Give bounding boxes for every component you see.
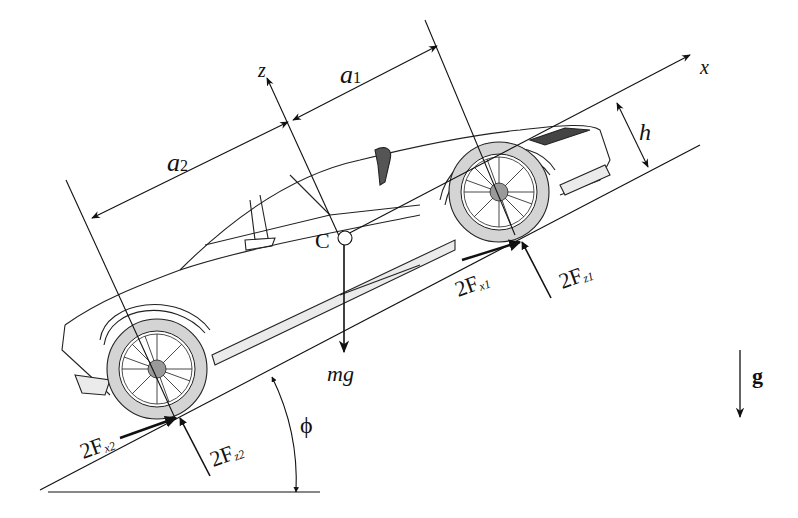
a2-label: a2 <box>167 150 188 176</box>
center-of-mass-marker <box>338 231 352 245</box>
free-body-diagram <box>0 0 798 518</box>
rear-normal-arrow <box>180 418 210 476</box>
incline-line <box>40 145 700 490</box>
x-axis-label: x <box>700 57 709 77</box>
front-traction-arrow <box>462 242 520 260</box>
rear-wheel <box>107 319 207 419</box>
gravity-label: g <box>752 365 763 387</box>
center-of-mass-label: C <box>315 230 330 252</box>
h-label: h <box>639 120 651 144</box>
a1-label: a1 <box>340 62 361 88</box>
incline-angle-label: ϕ <box>300 413 313 437</box>
weight-label: mg <box>327 363 354 385</box>
angle-arc <box>272 377 296 492</box>
z-axis-label: z <box>258 60 266 80</box>
ground <box>40 145 700 492</box>
front-normal-arrow <box>522 242 551 298</box>
rear-traction-arrow <box>120 418 176 438</box>
front-wheel <box>449 142 549 242</box>
a2-dimension <box>92 122 288 218</box>
a1-dimension <box>293 46 437 120</box>
